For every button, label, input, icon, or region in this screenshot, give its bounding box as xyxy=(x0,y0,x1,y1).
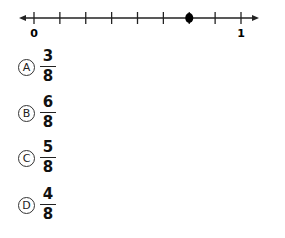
choice-d[interactable]: D 4 8 xyxy=(18,186,98,226)
right-arrow-icon xyxy=(252,15,259,21)
choice-b[interactable]: B 6 8 xyxy=(18,94,98,134)
number-line: 0 1 xyxy=(0,0,285,45)
numerator: 5 xyxy=(40,139,56,156)
numerator: 3 xyxy=(40,48,56,65)
choice-b-fraction: 6 8 xyxy=(40,94,56,131)
denominator: 8 xyxy=(40,68,56,85)
choice-d-fraction: 4 8 xyxy=(40,186,56,223)
choice-a-bubble[interactable]: A xyxy=(18,59,35,76)
denominator: 8 xyxy=(40,159,56,176)
left-arrow-icon xyxy=(19,15,26,21)
plotted-point xyxy=(185,13,193,23)
numerator: 6 xyxy=(40,94,56,111)
label-one: 1 xyxy=(237,27,245,40)
numerator: 4 xyxy=(40,186,56,203)
choice-d-bubble[interactable]: D xyxy=(18,197,35,214)
choice-c-fraction: 5 8 xyxy=(40,139,56,176)
denominator: 8 xyxy=(40,206,56,223)
choice-a[interactable]: A 3 8 xyxy=(18,48,98,88)
label-zero: 0 xyxy=(30,27,38,40)
choice-a-fraction: 3 8 xyxy=(40,48,56,85)
choice-c-bubble[interactable]: C xyxy=(18,150,35,167)
choice-b-bubble[interactable]: B xyxy=(18,105,35,122)
denominator: 8 xyxy=(40,114,56,131)
choice-c[interactable]: C 5 8 xyxy=(18,139,98,179)
